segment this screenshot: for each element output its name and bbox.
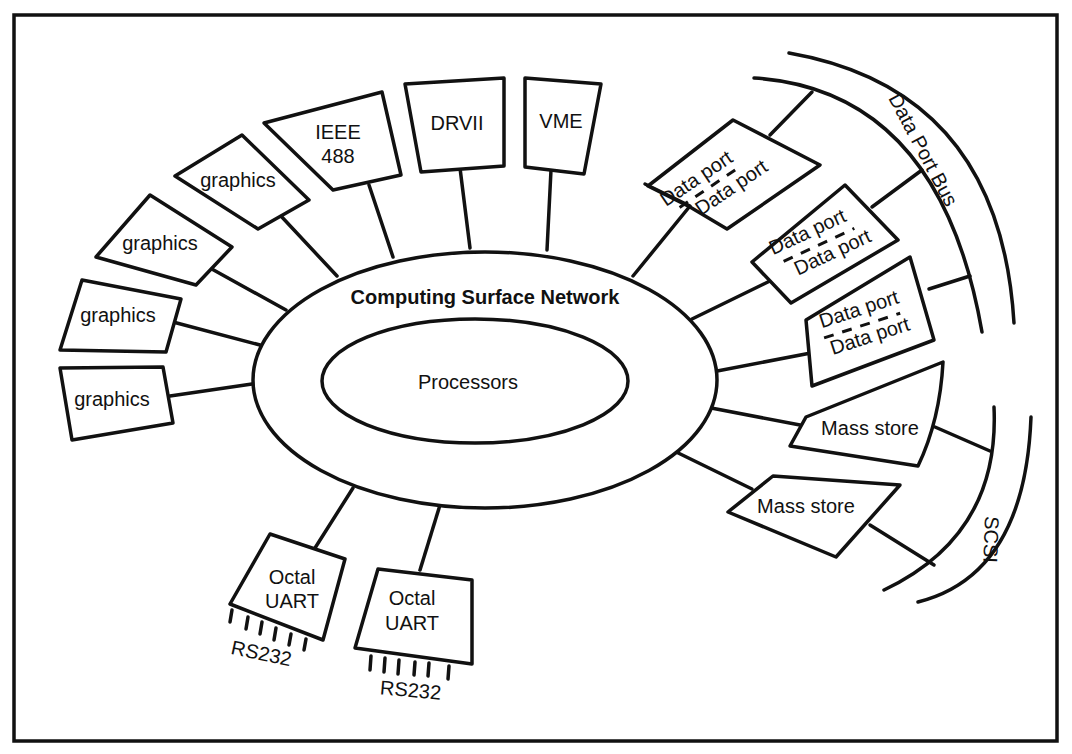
svg-text:DRVII: DRVII xyxy=(431,112,484,134)
svg-text:VME: VME xyxy=(539,110,582,132)
system-architecture-diagram: Computing Surface Network Processors gra… xyxy=(0,0,1072,754)
svg-text:Octal: Octal xyxy=(269,566,316,588)
rs232-label-2: RS232 xyxy=(379,676,442,703)
processors-label: Processors xyxy=(418,371,518,393)
node-graphics-2: graphics xyxy=(96,195,232,285)
svg-text:Octal: Octal xyxy=(389,587,436,609)
svg-text:488: 488 xyxy=(321,145,354,167)
svg-text:Mass store: Mass store xyxy=(757,495,855,517)
rs232-label-1: RS232 xyxy=(229,636,293,670)
svg-text:graphics: graphics xyxy=(80,304,156,326)
svg-text:Mass store: Mass store xyxy=(821,417,919,439)
svg-text:graphics: graphics xyxy=(122,232,198,254)
scsi-label: SCSI xyxy=(979,516,1003,563)
svg-text:graphics: graphics xyxy=(74,388,150,410)
node-data-port-pair-1: Data port Data port xyxy=(645,120,820,233)
node-octal-uart-1: Octal UART RS232 xyxy=(229,534,345,670)
node-vme: VME xyxy=(525,78,601,174)
node-graphics-4: graphics xyxy=(60,367,173,440)
svg-text:graphics: graphics xyxy=(200,169,276,191)
data-port-bus-label: Data Port Bus xyxy=(884,90,962,210)
node-graphics-3: graphics xyxy=(60,280,181,352)
svg-text:UART: UART xyxy=(385,612,439,634)
svg-text:UART: UART xyxy=(265,590,319,612)
node-octal-uart-2: Octal UART RS232 xyxy=(355,569,472,704)
network-label: Computing Surface Network xyxy=(351,286,621,308)
svg-text:IEEE: IEEE xyxy=(315,121,361,143)
node-mass-store-2: Mass store xyxy=(728,476,900,557)
node-drvii: DRVII xyxy=(405,78,504,172)
